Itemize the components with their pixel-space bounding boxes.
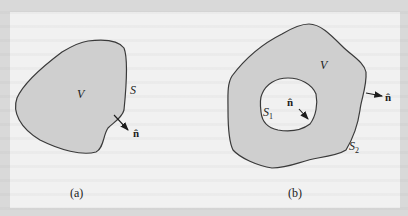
label-s-a: S — [130, 83, 136, 97]
panel-a: V S n̂ (a) — [16, 40, 140, 200]
label-n-inner: n̂ — [287, 96, 293, 108]
caption-b: (b) — [288, 186, 302, 200]
caption-a: (a) — [70, 186, 83, 200]
panel-b: V S1 n̂ n̂ S2 (b) — [228, 24, 391, 200]
label-s2: S2 — [349, 139, 359, 155]
label-s1: S1 — [263, 105, 273, 121]
normal-arrow-a — [114, 115, 128, 130]
label-n-outer: n̂ — [385, 91, 391, 103]
region-v-shape — [16, 40, 127, 153]
label-n-a: n̂ — [133, 127, 139, 139]
normal-arrow-inner — [299, 109, 308, 119]
normal-arrow-outer — [366, 93, 382, 96]
region-v-outer-shape — [228, 24, 366, 168]
figure-canvas: V S n̂ (a) V S1 n̂ n̂ S2 (b) — [0, 0, 408, 216]
